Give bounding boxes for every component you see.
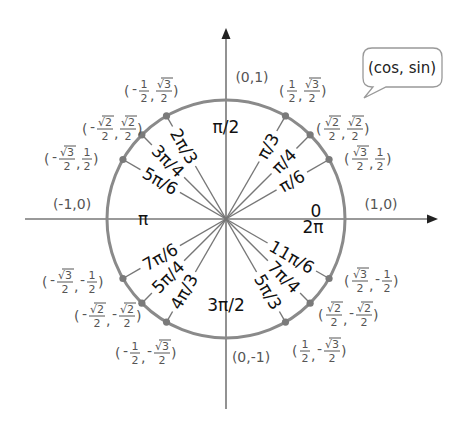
coord-label-5pi-over-3: (12,-√32) <box>292 338 346 365</box>
coord-label-5pi-over-4: (-√22,-√22) <box>74 303 141 330</box>
coord-label-pi-over-3: (12,√32) <box>279 78 326 105</box>
coord-label-4pi-over-3: (-12,-√32) <box>115 340 176 367</box>
sin-sign: - <box>80 272 85 288</box>
angle-label-pi-over-2: π/2 <box>213 117 240 137</box>
cos-denominator: 2 <box>141 92 148 105</box>
sin-numerator: 1 <box>384 268 391 281</box>
sin-denominator: 2 <box>352 130 359 143</box>
cos-denominator: 2 <box>62 283 69 296</box>
sin-denominator: 2 <box>84 160 91 173</box>
circle-point-pi-over-4 <box>307 131 314 138</box>
comma: , <box>150 87 154 103</box>
open-paren: ( <box>316 121 321 137</box>
coord-label-3pi-over-4: (-√22,√22) <box>82 116 142 143</box>
sin-numerator: √2 <box>120 303 134 316</box>
cos-sign: - <box>90 119 95 135</box>
cos-sign: - <box>52 149 57 165</box>
cos-denominator: 2 <box>302 352 309 365</box>
coord-label-2pi-over-3: (-12,√32) <box>124 78 178 105</box>
cos-denominator: 2 <box>132 354 139 367</box>
circle-point-7pi-over-6 <box>119 275 126 282</box>
circle-point-5pi-over-3 <box>282 318 289 325</box>
close-paren: ) <box>137 121 142 137</box>
cos-sign: - <box>123 343 128 359</box>
speech-bubble-text: (cos, sin) <box>368 59 436 77</box>
cos-numerator: √3 <box>353 146 367 159</box>
comma: , <box>106 312 110 328</box>
sin-numerator: 1 <box>84 146 91 159</box>
open-paren: ( <box>279 83 284 99</box>
cos-numerator: √3 <box>60 146 74 159</box>
circle-point-2pi-over-3 <box>163 112 170 119</box>
sin-numerator: √2 <box>348 116 362 129</box>
circle-point-pi-over-3 <box>282 112 289 119</box>
comma: , <box>298 87 302 103</box>
cos-denominator: 2 <box>357 160 364 173</box>
sin-numerator: √2 <box>357 302 371 315</box>
close-paren: ) <box>171 345 176 361</box>
comma: , <box>311 347 315 363</box>
coord-label-7pi-over-6: (-√32,-12) <box>42 269 103 296</box>
open-paren: ( <box>44 151 49 167</box>
sin-numerator: √3 <box>305 78 319 91</box>
sin-numerator: √3 <box>325 338 339 351</box>
close-paren: ) <box>364 121 369 137</box>
close-paren: ) <box>93 151 98 167</box>
sin-sign: - <box>317 341 322 357</box>
open-paren: ( <box>344 273 349 289</box>
cos-denominator: 2 <box>331 316 338 329</box>
sin-denominator: 2 <box>161 92 168 105</box>
angle-label-pi: π <box>138 209 148 229</box>
cos-sign: - <box>50 272 55 288</box>
ray-tick-pi-over-6 <box>307 160 329 173</box>
circle-point-pi-over-6 <box>325 156 332 163</box>
close-paren: ) <box>173 83 178 99</box>
cos-denominator: 2 <box>102 130 109 143</box>
angle-label-2pi: 2π <box>302 217 323 237</box>
coord-label-neg1-0: (-1,0) <box>53 196 91 212</box>
sin-denominator: 2 <box>125 130 132 143</box>
cos-sign: - <box>132 81 137 97</box>
close-paren: ) <box>341 343 346 359</box>
close-paren: ) <box>393 273 398 289</box>
comma: , <box>76 155 80 171</box>
comma: , <box>343 311 347 327</box>
open-paren: ( <box>344 151 349 167</box>
coord-label-0-1: (0,1) <box>235 69 268 85</box>
comma: , <box>141 349 145 365</box>
sin-denominator: 2 <box>309 92 316 105</box>
cos-denominator: 2 <box>64 160 71 173</box>
angle-label-3pi-over-2: 3π/2 <box>207 295 245 315</box>
comma: , <box>369 277 373 293</box>
open-paren: ( <box>82 121 87 137</box>
y-axis-arrow-icon <box>222 28 231 39</box>
sin-numerator: √2 <box>121 116 135 129</box>
open-paren: ( <box>124 83 129 99</box>
cos-denominator: 2 <box>357 282 364 295</box>
cos-denominator: 2 <box>289 92 296 105</box>
sin-numerator: √3 <box>155 340 169 353</box>
sin-denominator: 2 <box>124 317 131 330</box>
circle-point-7pi-over-4 <box>307 300 314 307</box>
sin-numerator: √3 <box>157 78 171 91</box>
sin-sign: - <box>375 271 380 287</box>
close-paren: ) <box>386 151 391 167</box>
close-paren: ) <box>136 308 141 324</box>
cos-numerator: √3 <box>353 268 367 281</box>
comma: , <box>74 278 78 294</box>
coord-label-11pi-over-6: (√32,-12) <box>344 268 398 295</box>
cos-denominator: 2 <box>94 317 101 330</box>
cos-numerator: √2 <box>90 303 104 316</box>
coord-label-5pi-over-6: (-√32,12) <box>44 146 98 173</box>
comma: , <box>369 155 373 171</box>
sin-denominator: 2 <box>384 282 391 295</box>
cos-numerator: 1 <box>302 338 309 351</box>
sin-denominator: 2 <box>377 160 384 173</box>
cos-sign: - <box>82 306 87 322</box>
cos-numerator: √2 <box>98 116 112 129</box>
open-paren: ( <box>318 307 323 323</box>
cos-sin-callout: (cos, sin) <box>363 48 442 98</box>
sin-numerator: 1 <box>377 146 384 159</box>
cos-denominator: 2 <box>329 130 336 143</box>
close-paren: ) <box>373 307 378 323</box>
